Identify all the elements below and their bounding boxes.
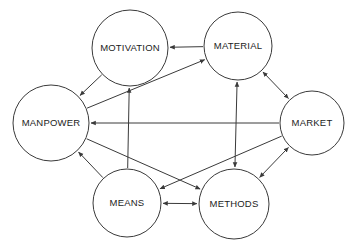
node-label-manpower: MANPOWER [22, 117, 81, 128]
node-market[interactable]: MARKET [280, 91, 344, 155]
node-material[interactable]: MATERIAL [204, 12, 272, 80]
nodes-layer: MOTIVATIONMATERIALMANPOWERMARKETMEANSMET… [13, 10, 344, 239]
edge-motivation-to-manpower [80, 75, 102, 96]
edge-material-market [263, 72, 288, 99]
node-manpower[interactable]: MANPOWER [13, 85, 89, 161]
node-label-methods: METHODS [210, 198, 259, 209]
diagram-canvas: MOTIVATIONMATERIALMANPOWERMARKETMEANSMET… [0, 0, 358, 250]
node-label-market: MARKET [292, 117, 333, 128]
node-means[interactable]: MEANS [93, 169, 161, 237]
edge-material-methods [235, 82, 237, 167]
node-label-motivation: MOTIVATION [100, 42, 160, 53]
edge-means-to-manpower [79, 152, 103, 178]
node-methods[interactable]: METHODS [199, 169, 269, 239]
node-label-means: MEANS [110, 197, 145, 208]
edge-methods-market [260, 147, 289, 177]
node-label-material: MATERIAL [214, 40, 262, 51]
edge-material-to-motivation [170, 47, 203, 48]
node-motivation[interactable]: MOTIVATION [92, 10, 168, 86]
six-m-diagram: MOTIVATIONMATERIALMANPOWERMARKETMEANSMET… [0, 0, 358, 250]
edge-means-to-motivation [128, 88, 130, 168]
